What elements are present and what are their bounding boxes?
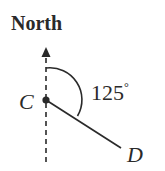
angle-label: 125° [91,80,129,105]
bearing-diagram: North C 125° D [0,0,165,171]
point-d-label: D [126,142,143,167]
north-label: North [11,12,62,34]
angle-arc [46,68,82,116]
line-cd [46,100,121,148]
north-arrow-icon [42,47,51,57]
point-c-label: C [19,89,34,114]
point-c [42,96,49,103]
